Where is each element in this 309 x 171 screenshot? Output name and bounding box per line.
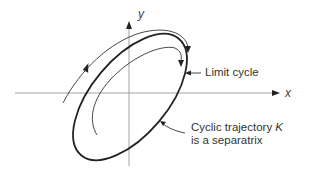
outer-trajectory	[63, 30, 191, 103]
separatrix-pointer	[160, 121, 185, 133]
separatrix-line-2: is a separatrix	[191, 134, 283, 147]
x-axis-arrow-icon	[272, 90, 280, 96]
y-axis-label: y	[138, 7, 144, 21]
separatrix-symbol: K	[275, 121, 283, 133]
separatrix-line-1: Cyclic trajectory K	[191, 121, 283, 134]
limit-cycle-direction-arrow-icon	[82, 62, 91, 73]
inner-trajectory	[92, 47, 184, 135]
limit-cycle-pointer	[185, 71, 201, 76]
separatrix-label: Cyclic trajectory K is a separatrix	[191, 121, 283, 147]
x-axis-label: x	[285, 86, 291, 100]
x-axis	[15, 90, 280, 96]
separatrix-line-1-text: Cyclic trajectory	[191, 121, 275, 133]
y-axis-arrow-icon	[126, 21, 132, 29]
limit-cycle-text: Limit cycle	[205, 66, 259, 78]
inner-trajectory-arrow-icon	[178, 60, 184, 67]
y-axis	[126, 21, 132, 166]
limit-cycle-label: Limit cycle	[205, 66, 259, 79]
